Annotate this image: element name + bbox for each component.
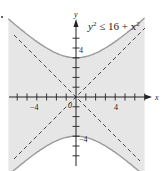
y-axis-arrow-icon	[74, 19, 79, 27]
y-tick-label-neg4: −4	[79, 135, 88, 144]
shaded-region	[8, 18, 144, 171]
x-axis-arrow-icon	[145, 95, 152, 100]
y-tick-label-pos4: 4	[79, 46, 83, 55]
x-tick-label-pos4: 4	[114, 103, 118, 112]
y-axis-label: y	[73, 10, 78, 19]
x-tick-label-neg4: −4	[30, 103, 39, 112]
bullet-mark	[1, 16, 3, 18]
x-axis-label: x	[154, 93, 159, 102]
hyperbola-region-plot: y2 ≤ 16 + x2 x y 0 −4 4 4 −4	[0, 0, 162, 171]
origin-label: 0	[68, 101, 72, 110]
inequality-label: y2 ≤ 16 + x2	[87, 20, 140, 32]
